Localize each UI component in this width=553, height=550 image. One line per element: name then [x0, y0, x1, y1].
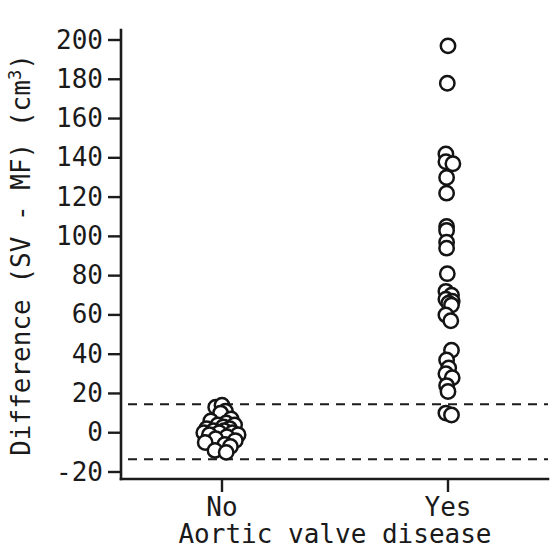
y-tick-label: 160: [56, 103, 103, 133]
data-point: [439, 186, 453, 200]
chart-figure: Difference (SV - MF) (cm3) -200204060801…: [0, 0, 553, 550]
y-tick-label: 60: [72, 299, 103, 329]
x-tick-label-group: NoYes: [206, 492, 471, 522]
y-axis-title: Difference (SV - MF) (cm3): [5, 54, 36, 456]
scatter-plot: Difference (SV - MF) (cm3) -200204060801…: [0, 0, 553, 550]
y-axis-title-superscript: 3: [5, 70, 25, 80]
y-tick-label: 180: [56, 64, 103, 94]
data-point: [440, 266, 454, 280]
x-axis-title: Aortic valve disease: [178, 519, 491, 549]
x-tick-group: [222, 479, 448, 492]
data-point: [446, 157, 460, 171]
y-tick-label: -20: [56, 457, 103, 487]
y-tick-label: 40: [72, 339, 103, 369]
data-point: [444, 314, 458, 328]
y-tick-label: 120: [56, 182, 103, 212]
y-axis-title-main: Difference (SV - MF) (cm: [6, 80, 36, 456]
y-tick-label: 100: [56, 221, 103, 251]
reference-line-group: [128, 404, 548, 459]
x-tick-label-no: No: [206, 492, 237, 522]
data-point: [441, 39, 455, 53]
data-point: [441, 384, 455, 398]
y-tick-label: 80: [72, 260, 103, 290]
y-tick-label: 20: [72, 378, 103, 408]
y-tick-label: 0: [87, 417, 103, 447]
data-point: [439, 241, 453, 255]
y-tick-group: -20020406080100120140160180200: [56, 25, 121, 487]
y-tick-label: 200: [56, 25, 103, 55]
data-point: [440, 76, 454, 90]
data-point: [444, 408, 458, 422]
data-point-group: [197, 39, 460, 460]
y-tick-label: 140: [56, 142, 103, 172]
data-point: [219, 445, 233, 459]
y-axis-title-tail: ): [6, 54, 36, 70]
data-point: [439, 170, 453, 184]
x-tick-label-yes: Yes: [425, 492, 472, 522]
